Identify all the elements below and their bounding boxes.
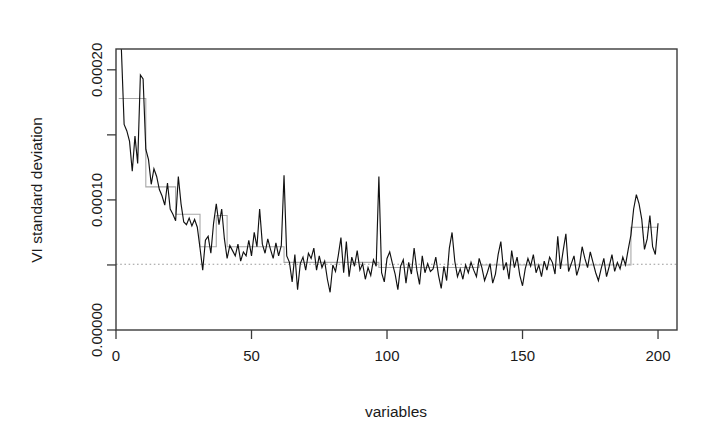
y-axis-title: VI standard deviation (28, 117, 45, 263)
y-tick-label: 0.00010 (88, 173, 105, 227)
x-tick-label: 50 (243, 347, 260, 364)
plot-background (0, 0, 714, 441)
x-tick-label: 100 (374, 347, 399, 364)
x-tick-label: 200 (646, 347, 671, 364)
x-tick-label: 150 (510, 347, 535, 364)
y-tick-label: 0.00020 (88, 43, 105, 97)
x-axis-title: variables (365, 403, 427, 420)
y-tick-label: 0.00000 (88, 303, 105, 357)
figure-canvas: 0.000000.000100.00020 050100150200 VI st… (0, 0, 714, 441)
x-tick-label: 0 (112, 347, 120, 364)
chart-plot: 0.000000.000100.00020 050100150200 VI st… (0, 0, 714, 441)
